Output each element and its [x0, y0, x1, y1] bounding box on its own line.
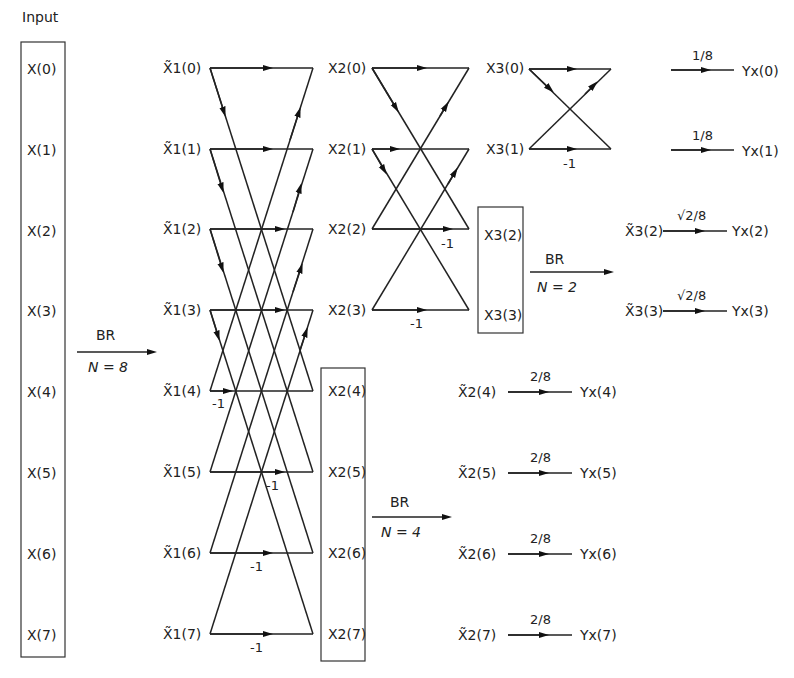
- minus-one-label: -1: [410, 316, 423, 331]
- br2-bottom-label: N = 2: [537, 279, 577, 295]
- output-1: 1/8 Yx(1): [671, 128, 779, 159]
- output-4: X̃2(4) 2/8 Yx(4): [458, 369, 617, 400]
- output-6: X̃2(6) 2/8 Yx(6): [458, 531, 617, 562]
- stage3-label: X3(1): [486, 141, 524, 157]
- stage2-label: X2(2): [328, 221, 366, 237]
- stage2-label: X2(1): [328, 141, 366, 157]
- output-source-label: X̃2(6): [458, 546, 496, 562]
- stage3-labels: X3(0) X3(1): [486, 60, 524, 157]
- gain-label: √2/8: [677, 208, 706, 223]
- input-label: X(0): [27, 61, 56, 77]
- output-7: X̃2(7) 2/8 Yx(7): [458, 612, 617, 643]
- stage2-boxed-label: X2(4): [328, 383, 366, 399]
- stage1-label: X̃1(4): [163, 383, 201, 399]
- input-label: X(4): [27, 384, 56, 400]
- minus-one-label: -1: [266, 478, 279, 493]
- stage1-label: X̃1(1): [163, 141, 201, 157]
- output-source-label: X̃3(2): [625, 223, 663, 239]
- input-box: [21, 42, 65, 657]
- bit-reversal-n4: BR N = 4: [372, 494, 447, 540]
- stage1-label: X̃1(3): [163, 302, 201, 318]
- output-source-label: X̃2(5): [458, 465, 496, 481]
- gain-label: 2/8: [530, 450, 551, 465]
- bit-reversal-n2: BR N = 2: [530, 251, 609, 295]
- minus-one-label: -1: [441, 236, 454, 251]
- stage3-boxed-label: X3(2): [484, 227, 522, 243]
- output-label: Yx(1): [741, 143, 779, 159]
- stage2-lower-box: [321, 368, 365, 661]
- stage2-boxed-labels: X2(4) X2(5) X2(6) X2(7): [328, 383, 366, 642]
- gain-label: 1/8: [692, 48, 713, 63]
- stage3-label: X3(0): [486, 60, 524, 76]
- br4-bottom-label: N = 4: [381, 524, 421, 540]
- stage1-label: X̃1(6): [163, 545, 201, 561]
- minus-one-label: -1: [563, 156, 576, 171]
- output-5: X̃2(5) 2/8 Yx(5): [458, 450, 617, 481]
- stage1-butterflies: [210, 68, 313, 634]
- output-label: Yx(5): [579, 465, 617, 481]
- stage1-label: X̃1(2): [163, 221, 201, 237]
- gain-label: 1/8: [692, 128, 713, 143]
- output-0: 1/8 Yx(0): [671, 48, 779, 79]
- input-label: X(7): [27, 627, 56, 643]
- br8-top-label: BR: [96, 327, 116, 343]
- stage2-labels: X2(0) X2(1) X2(2) X2(3): [328, 60, 366, 318]
- output-3: X̃3(3) √2/8 Yx(3): [625, 288, 769, 319]
- gain-label: 2/8: [530, 369, 551, 384]
- output-2: X̃3(2) √2/8 Yx(2): [625, 208, 769, 239]
- output-source-label: X̃2(4): [458, 384, 496, 400]
- signal-flow-diagram: Input X(0) X(1) X(2) X(3) X(4) X(5) X(6)…: [0, 0, 794, 678]
- output-label: Yx(7): [579, 627, 617, 643]
- input-labels: X(0) X(1) X(2) X(3) X(4) X(5) X(6) X(7): [27, 61, 56, 643]
- minus-one-label: -1: [250, 640, 263, 655]
- stage2-label: X2(3): [328, 302, 366, 318]
- stage2-boxed-label: X2(5): [328, 464, 366, 480]
- gain-label: 2/8: [530, 531, 551, 546]
- stage2-label: X2(0): [328, 60, 366, 76]
- output-label: Yx(3): [731, 303, 769, 319]
- input-label: X(6): [27, 546, 56, 562]
- output-source-label: X̃3(3): [625, 303, 663, 319]
- br8-bottom-label: N = 8: [88, 359, 128, 375]
- br2-top-label: BR: [545, 251, 565, 267]
- output-source-label: X̃2(7): [458, 627, 496, 643]
- minus-one-label: -1: [212, 396, 225, 411]
- stage1-label: X̃1(5): [163, 464, 201, 480]
- br4-top-label: BR: [390, 494, 410, 510]
- input-label: X(1): [27, 142, 56, 158]
- stage2-boxed-label: X2(6): [328, 545, 366, 561]
- input-label: X(5): [27, 465, 56, 481]
- stage1-label: X̃1(7): [163, 626, 201, 642]
- input-title: Input: [22, 9, 59, 25]
- output-label: Yx(4): [579, 384, 617, 400]
- gain-label: √2/8: [677, 288, 706, 303]
- stage2-butterflies: [372, 68, 469, 310]
- output-label: Yx(2): [731, 223, 769, 239]
- output-label: Yx(6): [579, 546, 617, 562]
- bit-reversal-n8: BR N = 8: [77, 327, 152, 375]
- stage1-labels: X̃1(0) X̃1(1) X̃1(2) X̃1(3) X̃1(4) X̃1(5…: [163, 60, 201, 642]
- stage1-label: X̃1(0): [163, 60, 201, 76]
- stage3-butterfly: [529, 69, 611, 149]
- input-label: X(2): [27, 223, 56, 239]
- gain-label: 2/8: [530, 612, 551, 627]
- input-label: X(3): [27, 303, 56, 319]
- stage2-minus-labels: -1 -1: [410, 236, 454, 331]
- stage2-boxed-label: X2(7): [328, 626, 366, 642]
- stage3-boxed-label: X3(3): [484, 307, 522, 323]
- output-label: Yx(0): [741, 63, 779, 79]
- minus-one-label: -1: [250, 559, 263, 574]
